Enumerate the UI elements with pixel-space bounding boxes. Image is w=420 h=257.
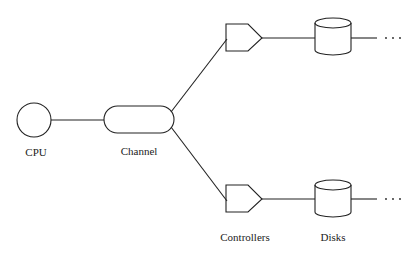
channel-controller-bottom-edge <box>171 127 227 201</box>
disks-label: Disks <box>320 231 345 243</box>
controller-top-node <box>226 24 262 51</box>
channel-controller-top-edge <box>171 39 227 112</box>
cpu-label: CPU <box>25 146 46 158</box>
controller-bottom-node <box>226 185 262 212</box>
channel-node <box>104 106 174 133</box>
disk-bottom-node <box>315 180 351 217</box>
cpu-node <box>17 103 51 137</box>
io-architecture-diagram <box>0 0 420 257</box>
channel-label: Channel <box>121 145 158 157</box>
disk-top-node <box>315 18 351 55</box>
controllers-label: Controllers <box>220 231 270 243</box>
continuation-dots <box>385 37 401 200</box>
